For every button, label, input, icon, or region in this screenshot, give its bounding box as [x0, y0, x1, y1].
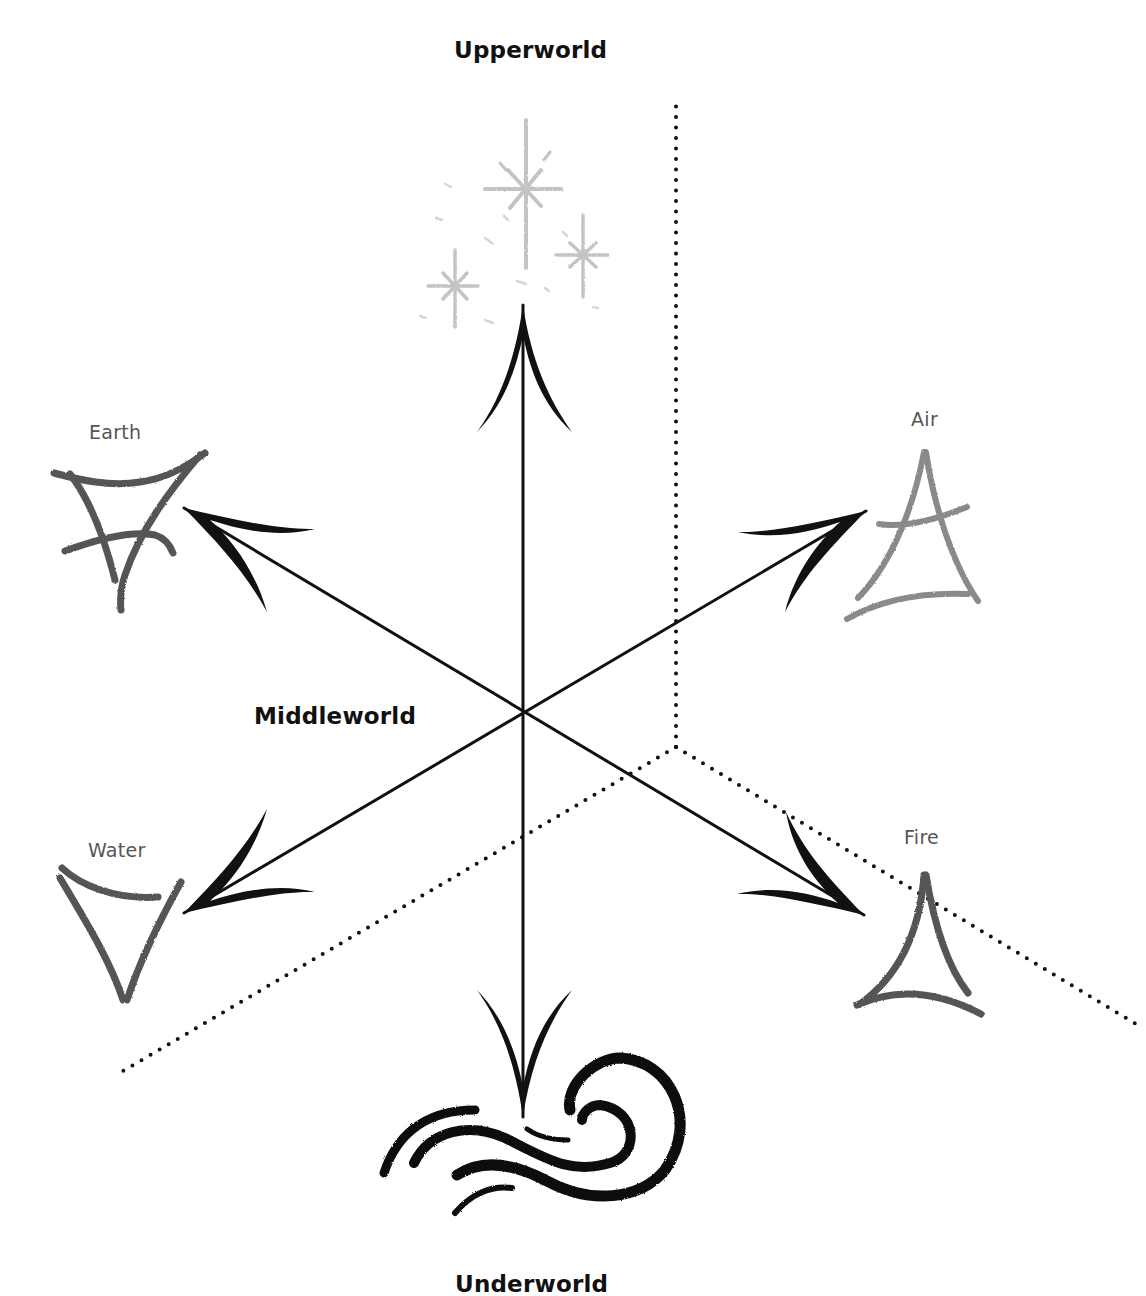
- star-right: [556, 215, 608, 297]
- wave-swirl-icon: [384, 1058, 680, 1213]
- arrowhead-lower-right-icon: [737, 812, 864, 915]
- arrowhead-upper-right-icon: [738, 511, 866, 612]
- star-left: [428, 250, 478, 327]
- underworld-label: Underworld: [455, 1271, 608, 1296]
- star-large: [485, 120, 561, 268]
- middleworld-label: Middleworld: [254, 703, 416, 729]
- water-triangle-icon: [60, 868, 181, 1000]
- earth-triangle-icon: [54, 453, 205, 610]
- arrowhead-upper-left-icon: [184, 508, 315, 612]
- upperworld-label: Upperworld: [454, 37, 607, 63]
- dotted-axis-left: [123, 747, 676, 1071]
- dotted-axes: [123, 100, 1136, 1071]
- stars-icon: [420, 120, 608, 327]
- water-label: Water: [88, 839, 146, 861]
- fire-label: Fire: [904, 826, 939, 848]
- arrowhead-lower-left-icon: [184, 809, 315, 913]
- dotted-axis-right: [676, 747, 1136, 1024]
- air-label: Air: [911, 408, 938, 430]
- earth-label: Earth: [89, 421, 141, 443]
- fire-triangle-icon: [857, 875, 981, 1014]
- air-triangle-icon: [847, 452, 978, 619]
